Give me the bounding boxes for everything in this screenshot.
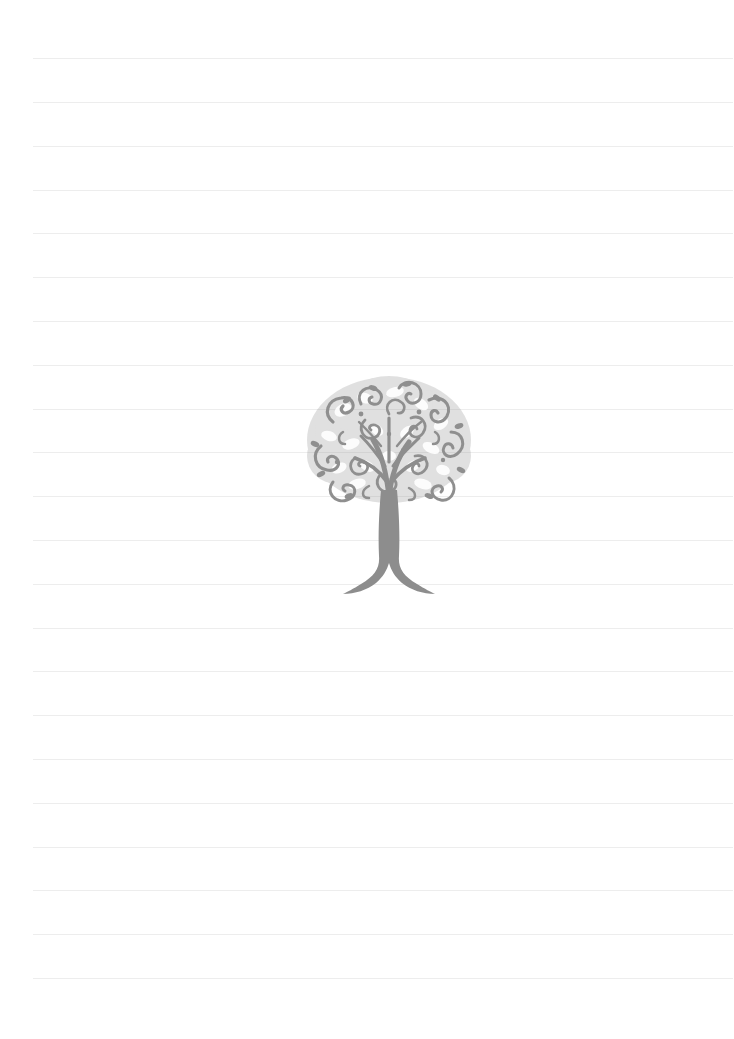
notebook-page <box>0 0 734 1039</box>
rule-line <box>33 146 733 147</box>
ornamental-tree-illustration <box>303 370 475 596</box>
rule-line <box>33 365 733 366</box>
rule-line <box>33 102 733 103</box>
rule-line <box>33 715 733 716</box>
rule-line <box>33 978 733 979</box>
rule-line <box>33 890 733 891</box>
rule-line <box>33 277 733 278</box>
rule-line <box>33 847 733 848</box>
tree-trunk <box>343 490 435 594</box>
rule-line <box>33 803 733 804</box>
rule-line <box>33 233 733 234</box>
rule-line <box>33 628 733 629</box>
rule-line <box>33 190 733 191</box>
rule-line <box>33 58 733 59</box>
rule-line <box>33 759 733 760</box>
rule-line <box>33 321 733 322</box>
rule-line <box>33 934 733 935</box>
rule-line <box>33 671 733 672</box>
